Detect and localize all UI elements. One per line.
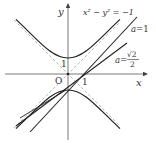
x-axis-label: x	[136, 77, 142, 88]
line-a-eq-1	[30, 17, 137, 132]
asymptote-y-eq-neg-x	[14, 20, 120, 126]
tangent-segment	[20, 90, 66, 118]
origin-label: O	[55, 76, 62, 86]
hyperbola-diagram: y x O 1 1 x² − y² = −1 a=1 a= √2 2	[0, 0, 156, 148]
line-a-eq-1-label: a=1	[131, 24, 149, 34]
line-a-eq-sqrt2-over-2-label: a= √2 2	[115, 50, 139, 69]
svg-text:√2: √2	[127, 50, 137, 59]
curve-equation-label: x² − y² = −1	[83, 8, 134, 17]
diagram-canvas: y x O 1 1 x² − y² = −1 a=1 a= √2 2	[0, 0, 156, 148]
origin-point	[67, 73, 70, 76]
svg-text:a=: a=	[115, 55, 127, 65]
svg-text:a=1: a=1	[131, 24, 149, 34]
y-tick-label: 1	[61, 59, 67, 69]
svg-text:2: 2	[130, 60, 135, 69]
y-axis-label: y	[57, 6, 64, 17]
line-a-eq-sqrt2-over-2	[16, 43, 127, 126]
x-tick-label: 1	[82, 77, 88, 87]
